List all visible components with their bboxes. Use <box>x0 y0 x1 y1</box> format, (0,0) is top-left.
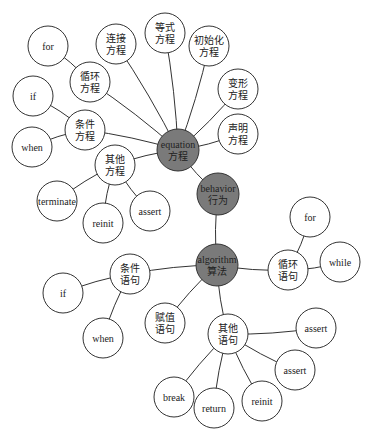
node-label: break <box>163 392 185 403</box>
node-label: 方程 <box>155 33 175 45</box>
node-eq-transform: 变形方程 <box>218 69 258 109</box>
node-eq-cond: 条件方程 <box>65 110 105 150</box>
node-label: 声明 <box>228 122 248 134</box>
node-eq-equality: 等式方程 <box>145 13 185 53</box>
node-eq-cond-if: if <box>13 76 53 116</box>
node-label: 其他 <box>105 153 125 165</box>
node-label: assert <box>139 206 162 217</box>
node-al-loop: 循环语句 <box>268 250 308 290</box>
node-label: 方程 <box>228 89 248 101</box>
node-eq-declare: 声明方程 <box>218 114 258 154</box>
node-label: if <box>30 91 37 102</box>
node-label: 其他 <box>218 322 238 334</box>
node-label: 循环 <box>80 70 100 82</box>
node-label: 变形 <box>228 77 248 89</box>
node-label: 方程 <box>228 134 248 146</box>
node-label: when <box>21 142 43 153</box>
node-label: 方程 <box>80 82 100 94</box>
node-label: 方程 <box>106 44 126 56</box>
node-label: assert <box>284 365 307 376</box>
node-label: for <box>304 212 316 223</box>
node-al-loop-while: while <box>320 242 360 282</box>
node-al-cond-if: if <box>43 273 83 313</box>
concept-map: equation方程behavior行为algorithm算法连接方程等式方程初… <box>0 0 371 441</box>
node-al-other-break: break <box>154 377 194 417</box>
node-al-loop-for: for <box>290 197 330 237</box>
node-label: 方程 <box>75 130 95 142</box>
node-label: reinit <box>251 396 272 407</box>
node-eq-other: 其他方程 <box>95 145 135 185</box>
nodes-layer: equation方程behavior行为algorithm算法连接方程等式方程初… <box>12 13 360 428</box>
node-label: 循环 <box>278 258 298 270</box>
node-equation: equation方程 <box>157 129 199 171</box>
node-label: 初始化 <box>194 34 224 46</box>
node-label: if <box>60 288 67 299</box>
node-al-other-assert2: assert <box>275 350 315 390</box>
node-eq-cond-when: when <box>12 127 52 167</box>
node-label: terminate <box>38 196 76 207</box>
node-algorithm: algorithm算法 <box>196 244 238 286</box>
node-label: 条件 <box>75 118 95 130</box>
node-eq-init: 初始化方程 <box>189 26 229 66</box>
node-label: 方程 <box>168 150 188 162</box>
node-al-cond: 条件语句 <box>110 254 150 294</box>
node-label: 方程 <box>105 165 125 177</box>
node-al-other-assert1: assert <box>296 308 336 348</box>
node-label: 方程 <box>199 46 219 58</box>
node-label: reinit <box>92 218 113 229</box>
node-label: behavior <box>201 183 237 194</box>
node-label: 算法 <box>207 265 227 277</box>
node-label: while <box>329 257 352 268</box>
node-label: assert <box>305 323 328 334</box>
node-al-assign: 赋值语句 <box>145 303 185 343</box>
node-label: 条件 <box>120 262 140 274</box>
node-label: 行为 <box>208 194 228 206</box>
node-label: 语句 <box>278 270 298 282</box>
node-al-other-return: return <box>194 388 234 428</box>
node-label: 语句 <box>120 274 140 286</box>
node-behavior: behavior行为 <box>197 173 239 215</box>
node-label: when <box>92 333 114 344</box>
node-label: 赋值 <box>155 311 175 323</box>
node-eq-loop-for: for <box>28 26 68 66</box>
node-label: algorithm <box>198 254 237 265</box>
node-eq-other-assert: assert <box>130 191 170 231</box>
node-al-other: 其他语句 <box>208 314 248 354</box>
node-al-other-reinit: reinit <box>242 381 282 421</box>
node-label: return <box>202 403 226 414</box>
node-label: 语句 <box>155 323 175 335</box>
node-label: 连接 <box>106 32 126 44</box>
node-eq-other-terminate: terminate <box>37 181 77 221</box>
node-eq-other-reinit: reinit <box>83 203 123 243</box>
node-label: 语句 <box>218 334 238 346</box>
node-label: for <box>42 41 54 52</box>
node-label: 等式 <box>155 21 175 33</box>
node-eq-connect: 连接方程 <box>96 24 136 64</box>
node-eq-loop: 循环方程 <box>70 62 110 102</box>
node-label: equation <box>161 139 195 150</box>
node-al-cond-when: when <box>83 318 123 358</box>
